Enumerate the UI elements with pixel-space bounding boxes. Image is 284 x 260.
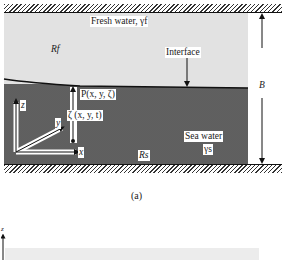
- figure-b-fresh-region: [5, 248, 259, 260]
- figure-b-axis-z-label: z: [1, 225, 4, 233]
- figure-b-lines: [0, 0, 284, 260]
